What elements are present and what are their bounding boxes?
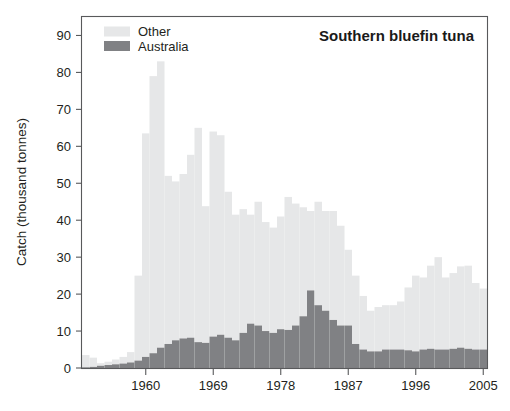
bar-segment-australia <box>195 342 203 368</box>
bar-segment-australia <box>270 333 278 368</box>
y-axis-tick-label: 60 <box>57 139 71 154</box>
bar-segment-australia <box>465 349 473 368</box>
bar-segment-other <box>180 174 188 338</box>
bar-segment-australia <box>322 311 330 368</box>
bar-segment-other <box>202 206 210 343</box>
bar-segment-other <box>97 363 105 366</box>
bar-segment-other <box>330 211 338 320</box>
bar-segment-other <box>247 215 255 324</box>
legend-swatch-australia <box>104 41 130 51</box>
bar-segment-australia <box>307 290 315 368</box>
y-axis-tick-label: 0 <box>64 361 71 376</box>
bar-segment-australia <box>187 338 195 368</box>
bar-segment-other <box>112 360 120 365</box>
bar-segment-australia <box>105 365 113 368</box>
legend-label-other: Other <box>138 24 171 39</box>
bar-segment-australia <box>142 357 150 368</box>
bar-segment-other <box>210 132 218 337</box>
bar-segment-other <box>300 207 308 316</box>
bar-segment-other <box>157 61 165 347</box>
bar-segment-other <box>390 305 398 349</box>
y-axis-tick-label: 30 <box>57 250 71 265</box>
bar-segment-australia <box>232 340 240 368</box>
bar-segment-other <box>270 228 278 333</box>
bar-segment-other <box>442 277 450 349</box>
x-axis-tick-label: 2005 <box>469 378 498 393</box>
bar-segment-other <box>397 301 405 349</box>
bar-segment-australia <box>427 349 435 368</box>
bar-segment-other <box>135 276 143 361</box>
bar-segment-other <box>187 155 195 338</box>
bar-segment-other <box>472 283 480 350</box>
bar-segment-australia <box>337 326 345 368</box>
bar-segment-other <box>337 226 345 326</box>
bar-segment-other <box>465 266 473 349</box>
bar-segment-other <box>262 222 270 331</box>
bar-segment-australia <box>225 338 233 368</box>
bar-segment-australia <box>202 343 210 368</box>
bar-segment-other <box>480 289 488 350</box>
bar-segment-australia <box>420 350 428 368</box>
bar-segment-other <box>195 128 203 342</box>
y-axis-title: Catch (thousand tonnes) <box>14 118 29 266</box>
x-axis-tick-label: 1996 <box>401 378 430 393</box>
bar-segment-australia <box>277 329 285 368</box>
bar-segment-australia <box>292 326 300 368</box>
bar-segment-other <box>285 197 293 330</box>
bar-segment-australia <box>480 350 488 368</box>
southern-bluefin-tuna-chart: 0102030405060708090 19601969197819871996… <box>0 0 510 411</box>
bar-segment-australia <box>315 305 323 368</box>
bar-segment-australia <box>120 364 128 368</box>
bar-segment-other <box>367 311 375 352</box>
bar-segment-australia <box>472 350 480 368</box>
bar-segment-australia <box>367 351 375 368</box>
bar-segment-other <box>127 352 135 362</box>
bar-segment-australia <box>360 350 368 368</box>
chart-figure: 0102030405060708090 19601969197819871996… <box>0 0 510 411</box>
bar-segment-australia <box>412 351 420 368</box>
bar-segment-other <box>82 355 90 367</box>
bar-segment-australia <box>247 324 255 368</box>
bar-segment-australia <box>180 338 188 368</box>
bar-segment-australia <box>157 348 165 368</box>
bar-segment-other <box>420 277 428 349</box>
bar-segment-australia <box>112 364 120 368</box>
y-axis-tick-label: 10 <box>57 324 71 339</box>
bar-segment-other <box>225 192 233 338</box>
bar-segment-australia <box>300 316 308 368</box>
bar-segment-other <box>255 202 263 326</box>
x-axis-tick-label: 1987 <box>334 378 363 393</box>
x-axis-tick-label: 1969 <box>199 378 228 393</box>
bar-segment-australia <box>405 350 413 368</box>
bar-segment-other <box>457 266 465 347</box>
bar-segment-other <box>360 296 368 350</box>
bar-segment-australia <box>442 350 450 368</box>
bar-segment-other <box>412 276 420 352</box>
bar-segment-other <box>427 266 435 349</box>
bar-segment-australia <box>345 326 353 368</box>
bar-segment-australia <box>435 350 443 368</box>
bar-segment-other <box>375 307 383 351</box>
bar-segment-other <box>232 215 240 341</box>
bar-segment-australia <box>262 331 270 368</box>
bar-segment-australia <box>127 362 135 368</box>
bar-segment-other <box>345 250 353 326</box>
bar-segment-other <box>277 217 285 330</box>
chart-title: Southern bluefin tuna <box>319 27 475 44</box>
bar-segment-other <box>435 257 443 349</box>
y-axis-tick-label: 70 <box>57 102 71 117</box>
bar-segment-australia <box>150 353 158 368</box>
legend-swatch-other <box>104 27 130 37</box>
bar-segment-australia <box>240 333 248 368</box>
bar-segment-australia <box>285 330 293 368</box>
bar-segment-other <box>405 287 413 350</box>
bar-segment-australia <box>382 350 390 368</box>
bar-segment-australia <box>330 320 338 368</box>
x-axis-tick-label: 1960 <box>131 378 160 393</box>
bar-segment-other <box>105 362 113 365</box>
bar-segment-other <box>150 76 158 353</box>
bar-segment-other <box>120 357 128 364</box>
y-axis-tick-label: 50 <box>57 176 71 191</box>
y-axis-tick-label: 90 <box>57 28 71 43</box>
bar-segment-other <box>90 358 98 367</box>
